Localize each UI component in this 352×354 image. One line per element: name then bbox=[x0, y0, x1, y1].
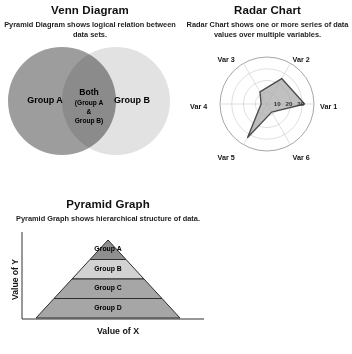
radar-axis-label-5: Var 5 bbox=[218, 153, 235, 162]
pyramid-y-axis-label: Value of Y bbox=[10, 259, 20, 300]
radar-tick-label-20: 20 bbox=[286, 100, 293, 107]
radar-figure: Var 1Var 2Var 3Var 4Var 5Var 6102030 bbox=[183, 43, 352, 165]
pyramid-layer-label-4: Group D bbox=[78, 304, 138, 311]
pyramid-x-axis-label: Value of X bbox=[58, 326, 178, 336]
venn-overlap-line-1: (Group A bbox=[62, 99, 116, 108]
radar-tick-label-10: 10 bbox=[274, 100, 281, 107]
pyramid-layer-label-2: Group B bbox=[78, 265, 138, 272]
pyramid-subtitle: Pyramid Graph shows hierarchical structu… bbox=[8, 214, 208, 224]
pyramid-figure: Value of Y Value of X Group AGroup BGrou… bbox=[8, 230, 208, 342]
venn-title: Venn Diagram bbox=[0, 4, 180, 16]
venn-overlap-line-3: Group B) bbox=[62, 117, 116, 126]
venn-overlap-line-2: & bbox=[62, 108, 116, 117]
radar-title: Radar Chart bbox=[183, 4, 352, 16]
pyramid-layer-label-3: Group C bbox=[78, 284, 138, 291]
radar-tick-label-30: 30 bbox=[297, 100, 304, 107]
venn-overlap-title: Both bbox=[62, 87, 116, 97]
pyramid-layer-label-1: Group A bbox=[78, 245, 138, 252]
radar-chart-panel: Radar Chart Radar Chart shows one or mor… bbox=[183, 4, 352, 165]
radar-subtitle: Radar Chart shows one or more series of … bbox=[183, 20, 352, 40]
radar-axis-label-3: Var 3 bbox=[218, 55, 235, 64]
radar-axis-label-1: Var 1 bbox=[320, 102, 337, 111]
radar-axis-label-6: Var 6 bbox=[293, 153, 310, 162]
venn-subtitle: Pyramid Diagram shows logical relation b… bbox=[0, 20, 180, 40]
radar-axis-label-2: Var 2 bbox=[293, 55, 310, 64]
radar-axis-label-4: Var 4 bbox=[190, 102, 207, 111]
venn-diagram-panel: Venn Diagram Pyramid Diagram shows logic… bbox=[0, 4, 180, 162]
pyramid-graph-panel: Pyramid Graph Pyramid Graph shows hierar… bbox=[8, 198, 208, 342]
venn-figure: Group A Group B Both (Group A & Group B) bbox=[0, 47, 180, 162]
pyramid-title: Pyramid Graph bbox=[8, 198, 208, 210]
venn-overlap-label: Both (Group A & Group B) bbox=[62, 87, 116, 125]
